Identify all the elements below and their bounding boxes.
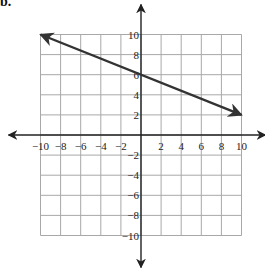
axes [9,5,266,268]
y-tick-label: 10 [128,29,140,41]
x-tick-label: −2 [115,140,127,152]
y-tick-label: 4 [134,89,140,101]
x-tick-label: −4 [95,140,107,152]
y-tick-label: 2 [134,109,140,121]
y-tick-label: −4 [127,169,139,181]
x-tick-label: 10 [236,140,248,152]
coordinate-graph: −10−8−6−4−2246810−10−8−6−4−2246810 [0,0,265,272]
x-tick-label: 4 [178,140,184,152]
x-tick-label: 6 [199,140,205,152]
y-tick-label: −10 [122,230,140,242]
y-tick-label: −2 [127,149,139,161]
y-tick-label: 8 [134,49,140,61]
y-tick-label: −8 [127,209,139,221]
y-tick-label: −6 [127,189,139,201]
x-tick-label: −8 [55,140,67,152]
x-tick-label: −6 [75,140,87,152]
x-tick-label: −10 [32,140,50,152]
x-tick-label: 2 [158,140,164,152]
x-tick-label: 8 [219,140,225,152]
